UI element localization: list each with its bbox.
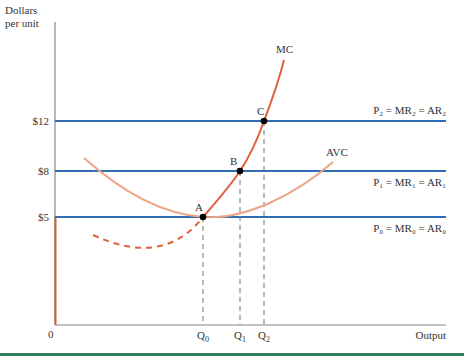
y-tick-5: $5 xyxy=(38,211,50,223)
avc-curve xyxy=(84,158,333,217)
price-line-label-p1: P₁ = MR₁ = AR₁ xyxy=(373,176,446,188)
x-tick-q1: Q1 xyxy=(234,329,246,344)
x-tick-q0: Q0 xyxy=(197,329,209,344)
origin-label: 0 xyxy=(48,328,54,340)
point-a-label: A xyxy=(195,201,203,213)
x-axis-label: Output xyxy=(415,329,446,341)
y-tick-8: $8 xyxy=(38,165,50,177)
point-a xyxy=(200,214,207,221)
price-line-label-p2: P₂ = MR₂ = AR₂ xyxy=(373,104,446,116)
point-c-label: C xyxy=(257,105,264,117)
mc-label: MC xyxy=(276,43,293,55)
y-axis-label-line1: Dollars xyxy=(5,4,37,16)
point-b xyxy=(237,168,244,175)
mc-curve-dashed xyxy=(93,217,203,248)
point-b-label: B xyxy=(230,155,237,167)
cost-curves-chart: Dollars per unit $12 $8 $5 P₂ = MR₂ = AR… xyxy=(0,0,464,356)
y-tick-12: $12 xyxy=(33,115,50,127)
point-c xyxy=(261,118,268,125)
mc-curve xyxy=(203,60,284,217)
price-line-label-p0: P₀ = MR₀ = AR₀ xyxy=(373,222,446,234)
x-tick-q2: Q2 xyxy=(258,329,270,344)
avc-label: AVC xyxy=(326,146,348,158)
y-axis-label-line2: per unit xyxy=(5,17,39,29)
